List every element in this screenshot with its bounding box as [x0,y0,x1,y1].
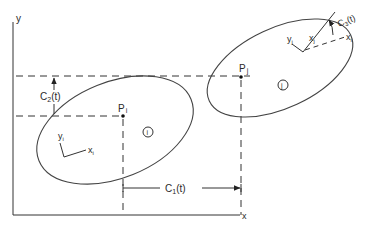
point-pj-label: Pj [239,63,249,75]
body-j-marker-circle [278,80,288,90]
global-axes: y x [13,13,247,221]
body-i-marker: i [147,129,149,136]
body-j-local-x-axis [303,12,335,52]
body-i-local-y-axis [60,143,64,157]
body-j-local-y-label: yj [287,34,293,45]
body-j-marker: j [280,82,283,90]
body-i-local-y-label: yi [58,131,64,142]
point-pi [121,114,125,118]
y-axis-label: y [16,13,21,24]
c2-label: C2(t) [40,91,61,103]
point-pi-label: Pi [118,103,128,114]
point-pj [239,75,243,79]
c2-dimension: C2(t) [40,78,61,114]
c3-angle-arc [329,20,333,35]
body-j-reference-x-label: xi [346,32,352,43]
body-i-local-x-axis [64,150,86,157]
c1-dimension: C1(t) [123,183,241,195]
x-axis-label: x [242,211,247,221]
body-j-local-y-axis [292,44,303,52]
relative-motion-diagram: y x Pi i yi xi Pj j yj xj xi [0,0,376,227]
c1-label: C1(t) [165,183,186,195]
body-i-local-x-label: xi [88,145,94,156]
body-j-local-x-label: xj [309,33,315,44]
c3-label: C3(t) [336,13,357,30]
